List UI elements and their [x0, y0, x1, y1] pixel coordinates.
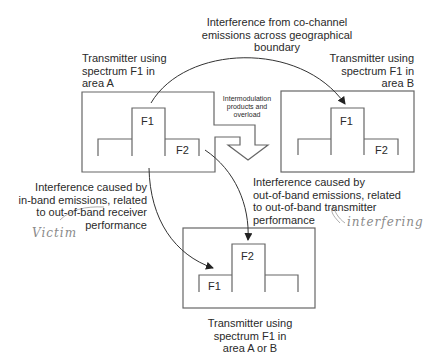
box-c-f2-label: F2: [241, 250, 254, 262]
box-b-f1-label: F1: [340, 115, 353, 127]
box-a-f1-label: F1: [141, 115, 154, 127]
in-band-arrow: [149, 168, 213, 268]
spectrum-interference-diagram: Interference from co-channel emissions a…: [0, 0, 439, 360]
box-c-f1-label: F1: [208, 280, 221, 292]
handwritten-interfering: interfering: [347, 215, 424, 229]
box-c-caption: Transmitter using spectrum F1 in area A …: [190, 317, 310, 355]
box-b-outline: [281, 91, 414, 172]
out-of-band-arrow: [205, 150, 248, 240]
top-caption: Interference from co-channel emissions a…: [182, 16, 372, 54]
box-b-f2-label: F2: [375, 144, 388, 156]
box-c-outline: [183, 228, 315, 308]
box-a-f2-label: F2: [176, 144, 189, 156]
handwritten-victim: Victim: [32, 226, 77, 240]
box-b-caption: Transmitter using spectrum F1 in area B: [300, 52, 414, 90]
intermod-caption: Intermodulation products and overload: [214, 95, 280, 119]
box-a-caption: Transmitter using spectrum F1 in area A: [82, 52, 167, 90]
in-band-caption: Interference caused by in-band emissions…: [5, 181, 147, 231]
